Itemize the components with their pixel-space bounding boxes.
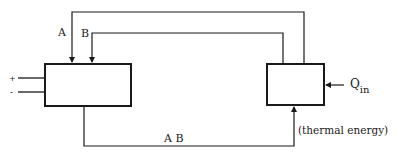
right-block xyxy=(267,64,324,105)
left-block xyxy=(45,64,131,106)
minus-label: - xyxy=(10,87,13,97)
line-a-label: A xyxy=(57,26,67,39)
diagram-canvas: + - A B A B Qin (thermal energy) xyxy=(0,0,410,155)
line-ab-label: A B xyxy=(163,132,184,145)
line-b-connector xyxy=(92,33,283,64)
thermal-energy-label: (thermal energy) xyxy=(298,124,388,136)
line-b-label: B xyxy=(81,27,89,40)
q-in-label: Qin xyxy=(350,77,370,95)
line-a-connector xyxy=(72,12,304,64)
plus-label: + xyxy=(9,74,16,83)
line-ab-connector xyxy=(84,106,294,146)
